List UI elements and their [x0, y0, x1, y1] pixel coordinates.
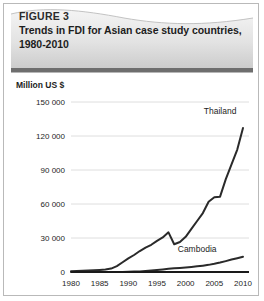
x-axis-tick-label: 1980 [62, 279, 80, 288]
x-axis-tick-label: 2005 [205, 279, 223, 288]
x-axis-tick-labels: 1980198519901995200020052010 [62, 279, 252, 288]
x-axis-tick-label: 2000 [177, 279, 195, 288]
y-axis-tick-label: 0 [61, 268, 66, 277]
x-axis-tick-label: 1990 [119, 279, 137, 288]
page-title: Trends in FDI for Asian case study count… [19, 24, 247, 51]
y-axis-tick-labels: 030 00060 00090 000120 000150 000 [36, 98, 65, 277]
figure-number: FIGURE 3 [19, 10, 247, 23]
series-label-cambodia: Cambodia [178, 244, 217, 254]
x-axis-tick-label: 2010 [234, 279, 252, 288]
y-axis-tick-label: 90 000 [41, 166, 66, 175]
series-line-thailand [71, 128, 243, 271]
y-axis-tick-label: 30 000 [41, 234, 66, 243]
header-text-block: FIGURE 3 Trends in FDI for Asian case st… [19, 10, 247, 51]
x-axis-tick-label: 1985 [91, 279, 109, 288]
series-label-thailand: Thailand [204, 106, 237, 116]
y-axis-tick-label: 120 000 [36, 132, 65, 141]
line-chart: 030 00060 00090 000120 000150 000 198019… [4, 76, 259, 296]
x-axis-tick-label: 1995 [148, 279, 166, 288]
figure-container: FIGURE 3 Trends in FDI for Asian case st… [3, 3, 259, 296]
figure-header: FIGURE 3 Trends in FDI for Asian case st… [4, 4, 259, 76]
chart-area: Million US $ 030 00060 00090 000120 0001… [4, 76, 259, 296]
series-lines [71, 128, 243, 272]
series-inline-labels: ThailandCambodia [178, 106, 237, 254]
gridlines [71, 102, 249, 238]
y-axis-tick-label: 60 000 [41, 200, 66, 209]
y-axis-tick-label: 150 000 [36, 98, 65, 107]
